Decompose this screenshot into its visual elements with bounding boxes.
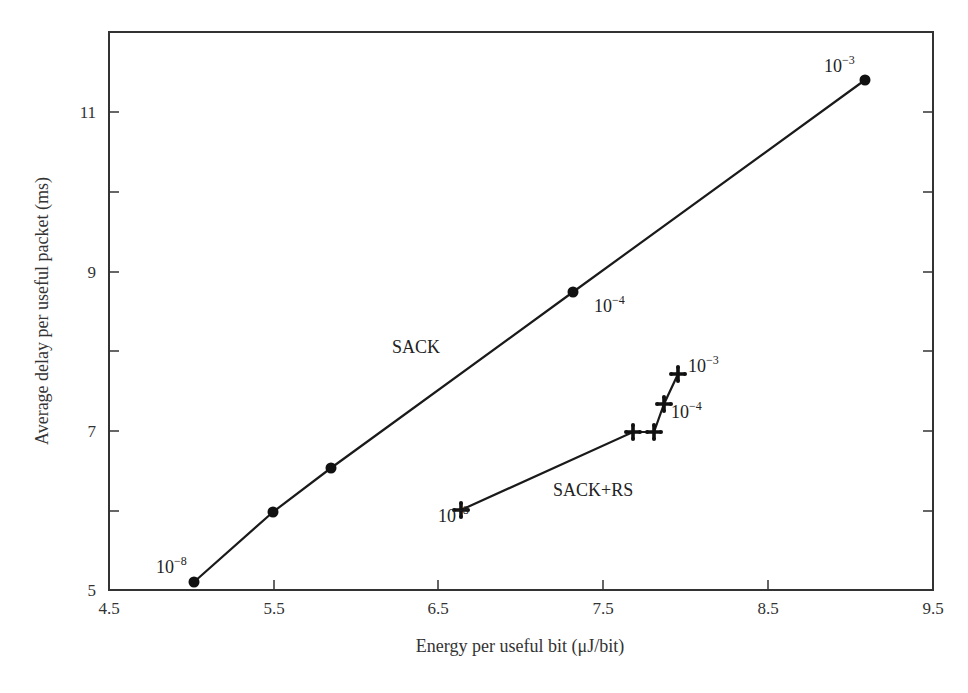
chart: 4.5 5.5 6.5 7.5 8.5 9.5 5 7 9 11 Energy … xyxy=(0,0,968,693)
y-tick-label: 11 xyxy=(80,103,96,122)
data-point xyxy=(189,577,200,588)
y-ticks-right xyxy=(923,112,933,511)
annotation-sackrs-1e-8: 10−8 xyxy=(438,503,469,526)
annotation-sackrs-1e-4: 10−4 xyxy=(671,399,702,422)
y-tick-label: 5 xyxy=(88,581,97,600)
series-label-sack: SACK xyxy=(392,337,440,357)
x-axis-label: Energy per useful bit (μJ/bit) xyxy=(416,636,624,657)
annotation-sack-1e-4: 10−4 xyxy=(594,293,625,316)
x-tick-label: 5.5 xyxy=(263,599,284,618)
annotation-sack-1e-8: 10−8 xyxy=(156,554,187,577)
x-tick-label: 7.5 xyxy=(592,599,613,618)
data-point xyxy=(669,365,687,383)
annotation-sackrs-1e-3: 10−3 xyxy=(688,353,719,376)
y-tick-label: 7 xyxy=(88,422,97,441)
data-point xyxy=(268,507,279,518)
y-tick-label: 9 xyxy=(88,263,97,282)
x-tick-label: 6.5 xyxy=(427,599,448,618)
x-tick-label: 9.5 xyxy=(922,599,943,618)
annotation-sack-1e-3: 10−3 xyxy=(824,53,855,76)
data-point xyxy=(568,287,579,298)
plot-frame xyxy=(109,32,933,590)
x-tick-label: 4.5 xyxy=(98,599,119,618)
series-label-sackrs: SACK+RS xyxy=(553,480,633,500)
data-point xyxy=(624,423,642,441)
data-point xyxy=(860,75,871,86)
data-point xyxy=(326,463,337,474)
series-sack-line xyxy=(194,80,865,582)
x-ticks xyxy=(274,580,768,590)
x-tick-label: 8.5 xyxy=(757,599,778,618)
y-axis-label: Average delay per useful packet (ms) xyxy=(32,177,53,445)
y-ticks-left xyxy=(109,112,119,511)
data-point xyxy=(645,423,663,441)
